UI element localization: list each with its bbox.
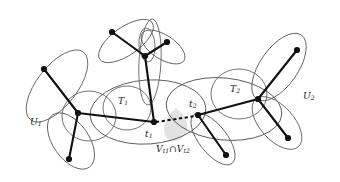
node-leaf-top-left	[109, 29, 115, 35]
figure-root: T1 T2 U1 U2 t1 t2 Vt	[0, 0, 340, 182]
node-hub-right	[255, 96, 261, 102]
label-intersection-v2-sub2: 2	[185, 147, 190, 154]
label-set-one-sub: 1	[38, 120, 42, 127]
node-leaf-right-upper	[294, 47, 300, 53]
label-intersection-op: ∩	[169, 143, 177, 154]
node-leaf-left-lower	[66, 156, 72, 162]
node-t1	[151, 119, 157, 125]
node-hub-top	[142, 53, 148, 59]
label-tree-one-sub: 1	[124, 99, 128, 106]
tree-decomposition-diagram: T1 T2 U1 U2 t1 t2 Vt	[0, 0, 340, 182]
node-leaf-right-lower	[285, 135, 291, 141]
node-t2	[195, 112, 201, 118]
label-tree-two-sub: 2	[235, 87, 240, 94]
node-leaf-bottom	[223, 152, 229, 158]
node-leaf-top-right	[164, 39, 170, 45]
node-hub-left	[75, 110, 81, 116]
label-node-one-sub: 1	[149, 132, 153, 139]
node-leaf-left-upper	[41, 66, 47, 72]
label-set-two-sub: 2	[310, 94, 315, 101]
label-node-two-sub: 2	[192, 102, 197, 109]
canvas-background	[0, 0, 340, 182]
